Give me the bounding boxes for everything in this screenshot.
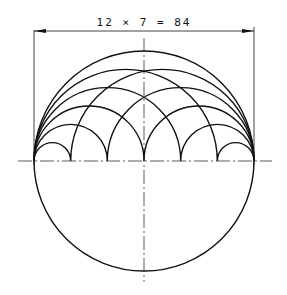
technical-drawing: 12 × 7 = 84 bbox=[0, 0, 287, 295]
arrowhead-left-icon bbox=[34, 29, 46, 33]
arrowhead-right-icon bbox=[242, 29, 254, 33]
dimension-label: 12 × 7 = 84 bbox=[97, 16, 192, 29]
